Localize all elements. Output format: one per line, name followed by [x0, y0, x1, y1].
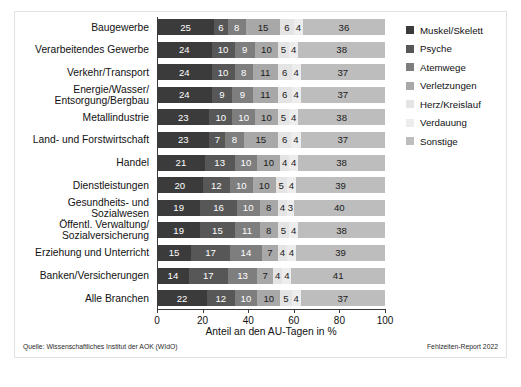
x-axis-line: 020406080100	[157, 309, 385, 310]
bar-segment: 10	[257, 155, 280, 171]
bar-segment: 3	[287, 200, 294, 216]
category-label: Gesundheits- und Sozialwesen	[15, 197, 157, 219]
legend-item[interactable]: Atemwege	[406, 61, 506, 73]
bar-segment: 14	[157, 268, 189, 284]
legend-swatch-icon	[406, 119, 414, 127]
legend-item[interactable]: Verdauung	[406, 117, 506, 129]
legend: Muskel/SkelettPsycheAtemwegeVerletzungen…	[406, 24, 506, 154]
bar-segment: 37	[301, 87, 385, 103]
bar-segment: 21	[157, 155, 205, 171]
legend-label: Atemwege	[420, 62, 466, 73]
bar-segment: 8	[228, 19, 246, 35]
bar-segment: 15	[244, 132, 278, 148]
chart-plot-area: Baugewerbe2568156436Verarbeitendes Gewer…	[15, 12, 508, 359]
source-note: Quelle: Wissenschaftliches Institut der …	[23, 343, 178, 350]
bar-segment: 10	[257, 290, 280, 306]
legend-item[interactable]: Sonstige	[406, 135, 506, 147]
bar-segment: 4	[278, 200, 287, 216]
stacked-bar: 15171474439	[157, 245, 385, 261]
legend-item[interactable]: Verletzungen	[406, 80, 506, 92]
legend-swatch-icon	[406, 82, 414, 90]
bar-segment: 9	[212, 87, 233, 103]
legend-swatch-icon	[406, 63, 414, 71]
bar-segment: 19	[157, 222, 200, 238]
bar-segment: 13	[205, 155, 235, 171]
chart-row: Dienstleistungen201210105439	[15, 177, 395, 193]
bar-segment: 36	[303, 19, 385, 35]
legend-item[interactable]: Herz/Kreislauf	[406, 98, 506, 110]
category-label: Land- und Forstwirtschaft	[15, 134, 157, 145]
bar-segment: 38	[298, 155, 385, 171]
chart-row: Verarbeitendes Gewerbe24109105438	[15, 42, 395, 58]
x-tick-label: 0	[154, 315, 160, 326]
bar-segment: 10	[212, 42, 235, 58]
bar-segment: 41	[291, 268, 384, 284]
chart-row: Erziehung und Unterricht15171474439	[15, 245, 395, 261]
x-axis-tick	[157, 309, 158, 313]
bar-segment: 11	[235, 222, 260, 238]
chart-row: Verkehr/Transport24108116437	[15, 64, 395, 80]
bar-segment: 24	[157, 64, 212, 80]
legend-item[interactable]: Psyche	[406, 43, 506, 55]
bar-segment: 38	[298, 109, 385, 125]
bar-segment: 4	[289, 155, 298, 171]
bar-segment: 6	[214, 19, 228, 35]
bar-segment: 10	[255, 109, 278, 125]
bar-segment: 39	[296, 245, 385, 261]
bar-segment: 4	[282, 268, 291, 284]
stacked-bar: 231010105438	[157, 109, 385, 125]
bar-segment: 4	[287, 245, 296, 261]
legend-item[interactable]: Muskel/Skelett	[406, 24, 506, 36]
bar-segment: 4	[278, 245, 287, 261]
bar-segment: 9	[235, 42, 256, 58]
bar-segment: 15	[200, 222, 234, 238]
bar-segment: 10	[255, 42, 278, 58]
category-label: Alle Branchen	[15, 293, 157, 304]
x-axis-tick	[294, 309, 295, 313]
x-tick-label: 100	[377, 315, 394, 326]
bar-segment: 17	[189, 268, 228, 284]
chart-row: Land- und Forstwirtschaft2378156437	[15, 132, 395, 148]
category-label: Banken/Versicherungen	[15, 270, 157, 281]
bar-segment: 37	[301, 290, 385, 306]
legend-label: Herz/Kreislauf	[420, 99, 481, 110]
legend-label: Verletzungen	[420, 80, 477, 91]
bar-segment: 5	[278, 109, 289, 125]
bar-segment: 5	[278, 42, 289, 58]
bar-segment: 8	[260, 200, 278, 216]
x-tick-label: 80	[334, 315, 345, 326]
chart-row: Energie/Wasser/ Entsorgung/Bergbau249911…	[15, 87, 395, 103]
bar-segment: 7	[257, 268, 273, 284]
legend-swatch-icon	[406, 45, 414, 53]
bar-segment: 9	[232, 87, 253, 103]
bar-segment: 17	[191, 245, 230, 261]
stacked-bar: 24109105438	[157, 42, 385, 58]
x-tick-label: 60	[288, 315, 299, 326]
figure-frame: Baugewerbe2568156436Verarbeitendes Gewer…	[14, 11, 507, 358]
x-axis-tick	[203, 309, 204, 313]
stacked-bar: 2568156436	[157, 19, 385, 35]
bar-segment: 24	[157, 42, 212, 58]
bar-segment: 37	[301, 132, 385, 148]
bar-segment: 10	[212, 64, 235, 80]
bar-segment: 6	[278, 87, 292, 103]
bar-segment: 4	[292, 64, 301, 80]
bar-segment: 12	[203, 177, 230, 193]
chart-row: Öffentl. Verwaltung/ Sozialversicherung1…	[15, 222, 395, 238]
bar-segment: 10	[235, 155, 258, 171]
category-label: Verkehr/Transport	[15, 67, 157, 78]
stacked-bar: 2499116437	[157, 87, 385, 103]
stacked-bar: 2378156437	[157, 132, 385, 148]
bar-segment: 8	[235, 64, 253, 80]
stacked-bar: 14171374441	[157, 268, 385, 284]
bar-segment: 4	[289, 109, 298, 125]
bar-segment: 23	[157, 109, 209, 125]
bar-segment: 4	[292, 87, 301, 103]
bar-segment: 13	[228, 268, 258, 284]
bar-segment: 23	[157, 132, 209, 148]
legend-label: Verdauung	[420, 117, 467, 128]
bar-segment: 37	[301, 64, 385, 80]
x-tick-label: 40	[243, 315, 254, 326]
bar-segment: 15	[246, 19, 280, 35]
bar-segment: 4	[292, 290, 301, 306]
